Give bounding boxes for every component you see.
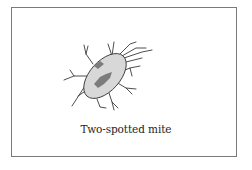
leg-bottom-4 [97, 99, 106, 108]
leg-upper-left-1 [84, 45, 93, 64]
leg-upper-left-1-b [86, 46, 88, 54]
mite-illustration [60, 36, 156, 112]
leg-left-2 [70, 70, 87, 76]
mite-icon [60, 36, 156, 112]
leg-right-7-b [130, 66, 140, 68]
leg-top-11 [124, 50, 152, 58]
figure-caption: Two-spotted mite [0, 123, 252, 135]
leg-top-12 [126, 58, 142, 62]
leg-left-2-b [64, 76, 74, 80]
